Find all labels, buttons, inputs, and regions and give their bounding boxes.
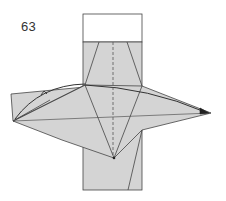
origami-diagram [0,0,226,201]
arrowhead-icon [200,108,209,114]
white-top-flap [83,14,142,42]
bottom-vertex-dot [113,157,116,160]
